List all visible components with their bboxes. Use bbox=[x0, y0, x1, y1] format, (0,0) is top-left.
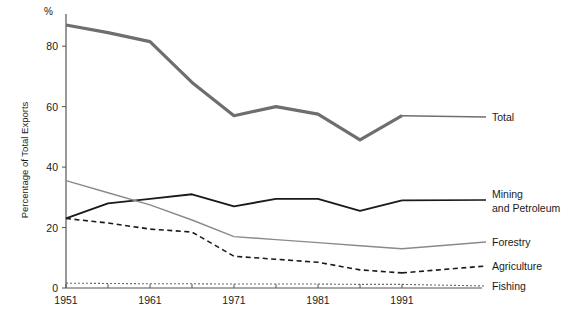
series-label-mining-line2: and Petroleum bbox=[492, 202, 561, 214]
x-axis-tick-label: 1961 bbox=[138, 294, 162, 306]
series-line-forestry bbox=[66, 181, 402, 249]
y-axis-tick-label: 20 bbox=[46, 222, 58, 234]
exports-line-chart: %02040608019511961197119811991Percentage… bbox=[0, 0, 587, 322]
y-axis-tick-label: 40 bbox=[46, 161, 58, 173]
series-label-agriculture: Agriculture bbox=[492, 260, 542, 272]
x-axis-tick-label: 1981 bbox=[306, 294, 330, 306]
y-axis-title: Percentage of Total Exports bbox=[19, 101, 30, 218]
series-line-mining-and-petroleum bbox=[66, 194, 402, 218]
y-axis-tick-label: 60 bbox=[46, 101, 58, 113]
series-leader-fishing bbox=[402, 284, 486, 286]
y-axis-unit-mark: % bbox=[44, 6, 53, 17]
series-line-fishing bbox=[66, 283, 402, 284]
x-axis-tick-label: 1991 bbox=[390, 294, 414, 306]
x-axis-tick-label: 1951 bbox=[54, 294, 78, 306]
x-axis-tick-label: 1971 bbox=[222, 294, 246, 306]
series-leader-forestry bbox=[402, 242, 486, 249]
y-axis-tick-label: 0 bbox=[52, 282, 58, 294]
series-leader-agriculture bbox=[402, 266, 486, 273]
chart-canvas: %02040608019511961197119811991Percentage… bbox=[0, 0, 587, 322]
series-label-forestry: Forestry bbox=[492, 236, 531, 248]
series-line-total bbox=[66, 25, 402, 140]
series-leader-total bbox=[402, 116, 486, 117]
y-axis-tick-label: 80 bbox=[46, 40, 58, 52]
series-label-mining-line1: Mining bbox=[492, 188, 523, 200]
series-label-total: Total bbox=[492, 111, 514, 123]
series-label-fishing: Fishing bbox=[492, 280, 526, 292]
